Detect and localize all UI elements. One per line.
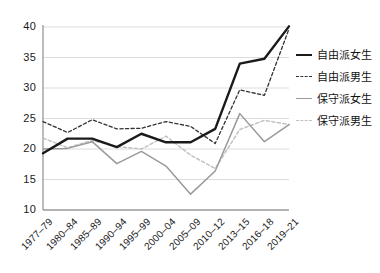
- series-line-0: [43, 26, 289, 153]
- legend-label-liberal-male: 自由派男生: [317, 72, 372, 83]
- y-tick-label: 10: [8, 204, 36, 215]
- legend-item-0[interactable]: 自由派女生: [296, 44, 380, 66]
- legend-label-conservative-female: 保守派女生: [317, 94, 372, 105]
- y-tick-label: 25: [8, 113, 36, 124]
- chart-legend: 自由派女生 自由派男生 保守派女生 保守派男生: [296, 44, 380, 132]
- legend-item-1[interactable]: 自由派男生: [296, 66, 380, 88]
- legend-swatch-conservative-male: [296, 116, 312, 126]
- y-tick-label: 40: [8, 21, 36, 32]
- legend-swatch-liberal-female: [296, 50, 312, 60]
- y-tick-label: 20: [8, 143, 36, 154]
- y-tick-label: 15: [8, 174, 36, 185]
- legend-item-2[interactable]: 保守派女生: [296, 88, 380, 110]
- legend-label-conservative-male: 保守派男生: [317, 116, 372, 127]
- legend-item-3[interactable]: 保守派男生: [296, 110, 380, 132]
- series-line-1: [43, 29, 289, 144]
- legend-swatch-liberal-male: [296, 72, 312, 82]
- chart-root: 10152025303540 1977–791980–841985–891990…: [0, 0, 380, 273]
- legend-swatch-conservative-female: [296, 94, 312, 104]
- y-tick-label: 35: [8, 52, 36, 63]
- y-tick-label: 30: [8, 82, 36, 93]
- legend-label-liberal-female: 自由派女生: [317, 50, 372, 61]
